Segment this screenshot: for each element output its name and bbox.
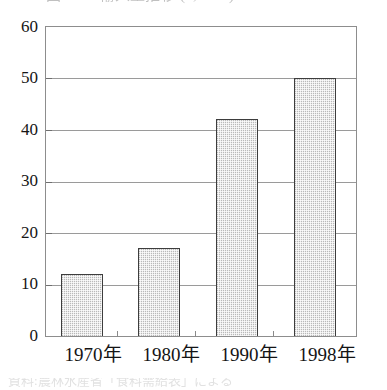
figure-caption-cropped: 資料:農林水産省「食料需給表」による [0, 378, 387, 390]
x-axis-label-1970: 1970年 [48, 344, 138, 365]
bar-chart: 60 50 40 30 20 10 0 [0, 13, 387, 390]
x-axis-tickmark-3 [273, 331, 274, 337]
plot-area [45, 26, 357, 337]
figure-title-cropped: 図2-1-3 輸入量推移 (1,000 t) [0, 0, 387, 13]
bar-1990 [216, 119, 258, 336]
y-axis-tickmark-30 [46, 182, 52, 183]
y-axis-tickmark-20 [46, 233, 52, 234]
figure-caption-text: 資料:農林水産省「食料需給表」による [8, 378, 233, 388]
figure-title-text: 図2-1-3 輸入量推移 (1,000 t) [46, 0, 376, 4]
y-axis-tick-label-10: 10 [4, 275, 38, 292]
figure-page: 図2-1-3 輸入量推移 (1,000 t) 60 50 40 30 20 10… [0, 0, 387, 390]
x-axis-tickmark-1 [117, 331, 118, 337]
y-axis-tick-label-60: 60 [4, 18, 38, 35]
y-axis-tick-label-40: 40 [4, 121, 38, 138]
y-axis-tick-label-30: 30 [4, 172, 38, 189]
x-axis-tickmark-2 [195, 331, 196, 337]
y-axis-tick-label-50: 50 [4, 69, 38, 86]
y-axis-tickmark-10 [46, 285, 52, 286]
y-axis-tick-label-20: 20 [4, 224, 38, 241]
y-axis-tickmark-40 [46, 130, 52, 131]
bar-1998 [294, 78, 336, 336]
x-axis-label-1980: 1980年 [126, 344, 216, 365]
x-axis-label-1998: 1998年 [282, 344, 372, 365]
x-axis-label-1990: 1990年 [204, 344, 294, 365]
y-axis-tick-label-0: 0 [4, 327, 38, 344]
bar-1970 [61, 274, 103, 336]
y-axis-tickmark-50 [46, 78, 52, 79]
bar-1980 [138, 248, 180, 336]
